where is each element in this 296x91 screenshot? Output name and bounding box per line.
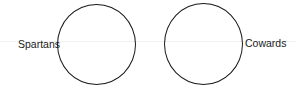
spartans-label: Spartans xyxy=(18,38,60,50)
cowards-label: Cowards xyxy=(245,37,286,49)
spartans-circle xyxy=(57,4,136,85)
cowards-circle xyxy=(164,3,243,85)
